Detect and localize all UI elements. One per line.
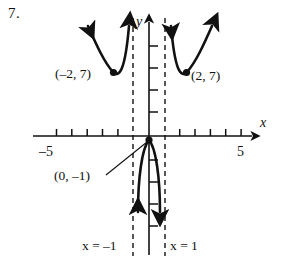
asymptote-label-x-1: x = 1 [170,238,198,253]
x-axis-label: x [259,115,267,130]
graph-canvas: x –5 5 y [0,0,288,266]
y-axis: y [134,14,158,255]
asymptote-label-x-minus1: x = –1 [82,238,117,253]
curve-left-branch [88,26,129,76]
point-label-right-vertex: (2, 7) [191,68,220,83]
figure-container: 7. x [0,0,288,266]
vertex-dot-left [110,69,117,76]
point-label-left-vertex: (–2, 7) [55,66,91,81]
point-label-center-vertex: (0, –1) [54,168,90,183]
x-tick-label-minus5: –5 [38,144,53,159]
x-tick-label-5: 5 [237,144,244,159]
y-axis-label: y [134,14,143,29]
vertex-dot-right [183,69,190,76]
